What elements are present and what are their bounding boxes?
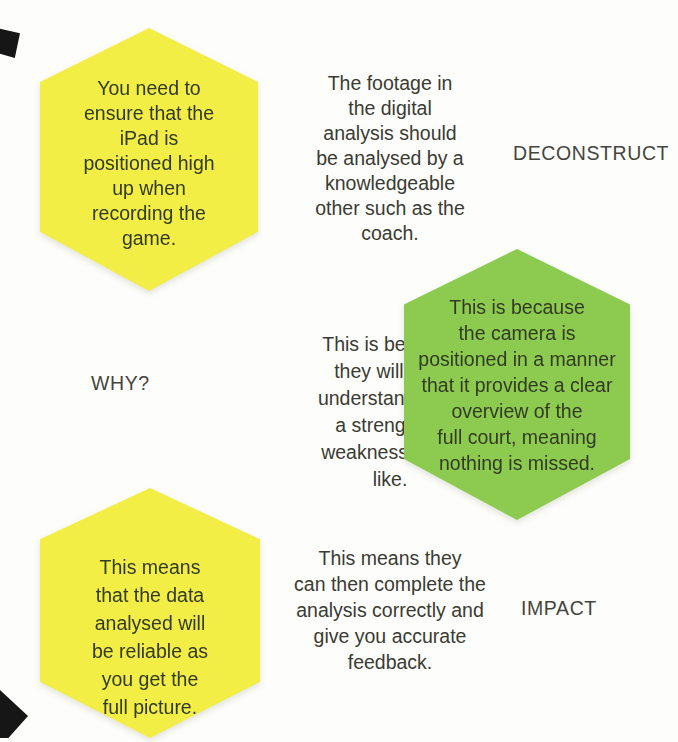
hexagon-text: This is becausethe camera ispositioned i… xyxy=(418,294,615,476)
label-impact: IMPACT xyxy=(521,597,597,620)
note-deconstruct: The footage inthe digitalanalysis should… xyxy=(250,71,530,246)
hexagon-text: You need toensure that theiPad ispositio… xyxy=(83,76,214,251)
photo-corner-artifact-bottom-left xyxy=(0,690,28,738)
label-deconstruct: DECONSTRUCT xyxy=(513,142,669,165)
label-why: WHY? xyxy=(91,372,150,395)
hexagon-card-clear-overview: This is becausethe camera ispositioned i… xyxy=(404,249,630,520)
hexagon-card-reliable-data: This meansthat the dataanalysed willbe r… xyxy=(40,488,260,738)
photo-corner-artifact-top-left xyxy=(0,27,20,58)
hexagon-shape: You need toensure that theiPad ispositio… xyxy=(40,28,258,291)
note-impact: This means theycan then complete theanal… xyxy=(250,545,530,675)
hexagon-shape: This meansthat the dataanalysed willbe r… xyxy=(40,488,260,738)
workbook-page: You need toensure that theiPad ispositio… xyxy=(0,0,678,742)
hexagon-shape: This is becausethe camera ispositioned i… xyxy=(404,249,630,520)
hexagon-card-camera-position: You need toensure that theiPad ispositio… xyxy=(40,28,258,291)
hexagon-text: This meansthat the dataanalysed willbe r… xyxy=(92,553,208,721)
